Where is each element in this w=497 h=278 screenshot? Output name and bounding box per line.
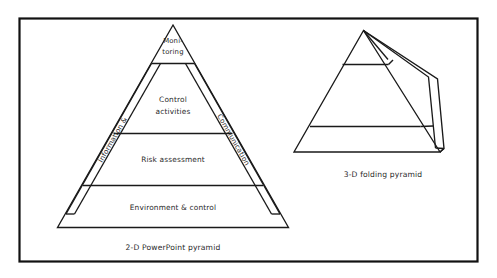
figure-border — [20, 19, 478, 262]
label-monitoring-line1: Moni- — [163, 37, 183, 45]
label-environment-control: Environment & control — [130, 203, 216, 212]
label-risk-assessment: Risk assessment — [141, 155, 205, 164]
label-control-activities-line1: Control — [159, 95, 187, 104]
caption-3d-pyramid: 3-D folding pyramid — [344, 170, 423, 179]
label-monitoring-line2: toring — [162, 48, 183, 56]
pyramid-3d-flap-bottom-cap — [436, 148, 445, 149]
figure-root: Moni- toring Control activities Risk ass… — [0, 0, 497, 278]
pyramid-3d-band-lower-connector — [421, 126, 434, 127]
diagram-canvas: Moni- toring Control activities Risk ass… — [0, 0, 497, 278]
label-control-activities-line2: activities — [156, 107, 191, 116]
caption-2d-pyramid: 2-D PowerPoint pyramid — [126, 243, 221, 252]
